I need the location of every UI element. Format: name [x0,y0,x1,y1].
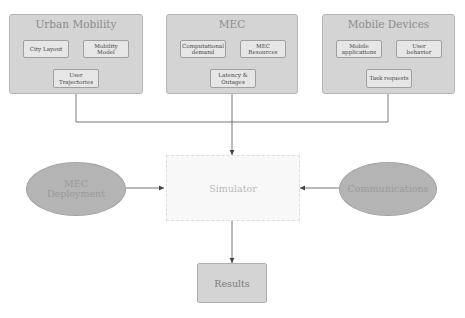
group-title: MEC [167,18,297,30]
user-trajectories-box: User Trajectories [53,69,99,88]
latency-outages-box: Latency & Outages [210,69,256,88]
mobile-devices-group: Mobile Devices Mobile applications User … [322,14,455,94]
results-box: Results [197,263,267,303]
mec-resources-box: MEC Resources [240,40,286,58]
mec-group: MEC Computational demand MEC Resources L… [166,14,298,94]
mobility-model-box: Mobility Model [83,40,129,58]
simulator-box: Simulator [166,155,300,221]
communications-ellipse: Communications [339,162,437,216]
task-requests-box: Task requests [366,69,412,88]
mobile-applications-box: Mobile applications [336,40,382,58]
group-title: Urban Mobility [10,18,142,30]
city-layout-box: City Layout [23,40,69,58]
mec-deployment-ellipse: MEC Deployment [26,162,126,216]
user-behavior-box: User behavior [396,40,442,58]
urban-mobility-group: Urban Mobility City Layout Mobility Mode… [9,14,143,94]
group-title: Mobile Devices [323,18,454,30]
computational-demand-box: Computational demand [180,40,226,58]
